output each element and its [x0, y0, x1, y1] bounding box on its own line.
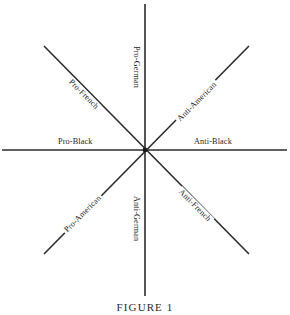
- axis-label-pro-german: Pro-German: [131, 44, 141, 90]
- axis-label-anti-black: Anti-Black: [192, 137, 234, 147]
- figure-caption: FIGURE 1: [0, 301, 290, 313]
- axes-group: [0, 0, 290, 315]
- origin-point: [143, 148, 148, 153]
- figure-diagram: Pro-Black Anti-Black Pro-German Anti-Ger…: [0, 0, 290, 315]
- axis-label-pro-black: Pro-Black: [56, 137, 95, 147]
- axis-label-anti-german: Anti-German: [131, 194, 141, 243]
